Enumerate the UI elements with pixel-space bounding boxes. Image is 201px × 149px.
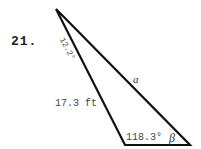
triangle-diagram [0,0,201,149]
bottom-left-angle-label: 118.3° [126,132,162,143]
triangle [56,9,190,145]
left-side-length-label: 17.3 ft [55,98,97,109]
beta-angle-label: β [169,131,175,146]
side-a-label: a [133,73,139,85]
